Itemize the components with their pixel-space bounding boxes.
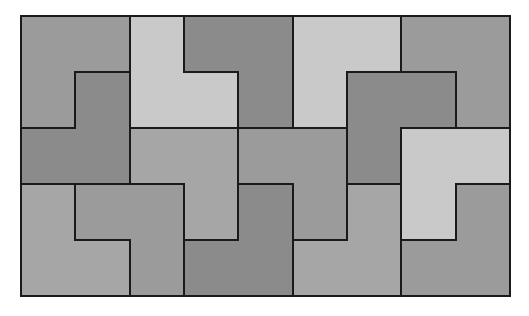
tile-cell	[456, 16, 511, 73]
tile-cell	[456, 72, 511, 129]
tile-cell	[21, 128, 76, 185]
tile-cell	[184, 72, 239, 129]
tile-cell	[347, 128, 402, 185]
tile-cell	[456, 184, 511, 241]
tile-cell	[238, 72, 294, 129]
tile-cell	[401, 72, 457, 129]
tile-cell	[130, 184, 185, 241]
tile-cell	[293, 72, 348, 129]
tile-cell	[75, 128, 131, 185]
tile-cell	[21, 16, 76, 73]
tile-cell	[130, 128, 185, 185]
tile-cell	[130, 72, 185, 129]
tile-cell	[347, 16, 402, 73]
tile-cell	[401, 184, 457, 241]
tile-cell	[75, 240, 131, 297]
tile-cell	[347, 184, 402, 241]
tile-cell	[184, 184, 239, 241]
tile-cell	[347, 240, 402, 297]
tile-cell	[347, 72, 402, 129]
tile-cell	[238, 184, 294, 241]
tile-cell	[293, 16, 348, 73]
tile-cell	[130, 240, 185, 297]
tile-cell	[238, 16, 294, 73]
tile-cell	[293, 184, 348, 241]
tile-cell	[75, 184, 131, 241]
tile-cell	[21, 72, 76, 129]
tile-cell	[238, 240, 294, 297]
tile-cell	[293, 128, 348, 185]
tile-cell	[75, 72, 131, 129]
tile-cell	[21, 184, 76, 241]
tile-cell	[75, 16, 131, 73]
tile-cell	[238, 128, 294, 185]
tile-cell	[184, 128, 239, 185]
tiling-diagram	[0, 0, 529, 316]
tile-cell	[456, 128, 511, 185]
tile-cell	[401, 16, 457, 73]
tile-cell	[293, 240, 348, 297]
tile-cell	[401, 128, 457, 185]
tile-cell	[184, 240, 239, 297]
tile-cell	[130, 16, 185, 73]
tile-cell	[21, 240, 76, 297]
tile-cell	[184, 16, 239, 73]
tile-cell	[401, 240, 457, 297]
tile-cell	[456, 240, 511, 297]
